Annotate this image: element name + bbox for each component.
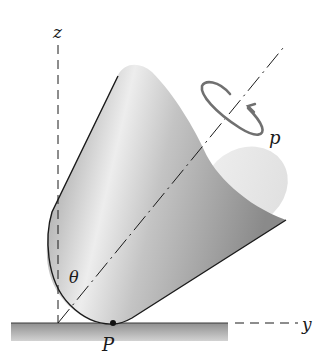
tilt-angle-label: θ (69, 268, 79, 287)
contact-point-label: P (101, 334, 115, 355)
contact-point-marker (110, 320, 116, 326)
spin-arrow-icon (202, 82, 263, 134)
y-axis-label: y (301, 314, 312, 334)
cone-diagram: z y p θ P (0, 0, 333, 362)
spin-rate-label: p (269, 127, 281, 148)
cone (47, 65, 304, 324)
z-axis-label: z (52, 22, 63, 42)
ground-plane (11, 323, 228, 341)
